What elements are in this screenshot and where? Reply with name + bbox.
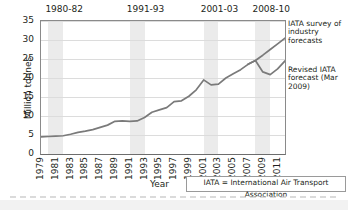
x-axis-tick: 1979	[35, 157, 45, 191]
x-axis-tick-label: 1995	[154, 157, 163, 180]
y-axis-tick-label: 0	[12, 149, 34, 158]
y-axis-tick-label: 15	[12, 92, 34, 101]
x-axis-tick: 1983	[65, 157, 75, 191]
annotation-revised-forecast: Revised IATA forecast (Mar 2009)	[288, 66, 346, 91]
bottom-divider	[10, 196, 338, 198]
recession-label-1991-93: 1991-93	[127, 5, 165, 14]
x-axis-tick-label: 1993	[139, 157, 148, 180]
chart-figure: 1980-82 1991-93 2001-03 2008-10 Million …	[0, 0, 348, 210]
x-axis-tick-label: 1983	[65, 157, 74, 180]
x-axis-tick: 1987	[94, 157, 104, 191]
x-axis-tick: 1997	[168, 157, 178, 191]
x-axis-tick-label: 1989	[109, 157, 118, 180]
annotation-panel: IATA survey of industry forecasts Revise…	[288, 20, 346, 155]
recession-label-2001-03: 2001-03	[201, 5, 239, 14]
x-axis-tick-label: 1997	[169, 157, 178, 180]
line-revised-forecast	[248, 61, 285, 75]
recession-label-1980-82: 1980-82	[45, 5, 83, 14]
x-axis-tick-label: 1979	[36, 157, 45, 180]
y-axis-tick-label: 10	[12, 111, 34, 120]
x-axis-tick-label: 1991	[124, 157, 133, 180]
y-axis-tick-label: 35	[12, 16, 34, 25]
y-axis-tick-label: 30	[12, 35, 34, 44]
series-lines	[41, 21, 285, 154]
x-axis-title: Year	[150, 179, 169, 189]
y-axis-tick-label: 25	[12, 54, 34, 63]
x-axis-tick: 1989	[109, 157, 119, 191]
x-axis-tick-label: 1985	[80, 157, 89, 180]
footnote-iata: IATA = International Air Transport Assoc…	[186, 176, 346, 192]
x-axis-tick-label: 1987	[95, 157, 104, 180]
y-axis-tick-label: 20	[12, 73, 34, 82]
annotation-survey-forecast: IATA survey of industry forecasts	[288, 20, 346, 45]
plot-area	[40, 20, 286, 155]
x-axis-tick: 1991	[124, 157, 134, 191]
plot-inner	[41, 21, 285, 154]
x-axis-tick: 1985	[79, 157, 89, 191]
x-axis-tick: 1993	[139, 157, 149, 191]
y-axis-tick-label: 5	[12, 130, 34, 139]
line-iata-survey	[41, 38, 285, 137]
x-axis-tick: 1981	[50, 157, 60, 191]
x-axis-tick-label: 1981	[50, 157, 59, 180]
recession-label-2008-10: 2008-10	[252, 5, 290, 14]
